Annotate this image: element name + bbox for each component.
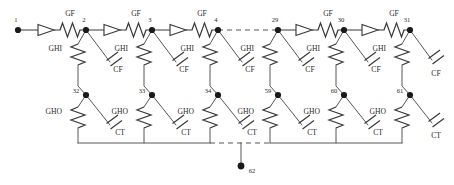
- series-resistor-3-4: [192, 23, 212, 37]
- node-label-29: 29: [272, 16, 279, 23]
- upper-shunt-node-4: GHI CF: [181, 30, 255, 95]
- shunt-label-ghi-4: GHI: [181, 44, 195, 53]
- node-dot-30[interactable]: [341, 27, 347, 33]
- node-dot-61[interactable]: [407, 92, 413, 98]
- node-dot-31[interactable]: [407, 27, 413, 33]
- shunt-label-cf-4: CF: [245, 65, 254, 74]
- node-dot-29[interactable]: [275, 27, 281, 33]
- shunt-label-gho-32: GHO: [46, 107, 63, 116]
- node-label-3: 3: [148, 16, 152, 23]
- series-triangle-30-31: [362, 25, 378, 36]
- lower-shunt-node-32: GHO CT: [46, 95, 126, 143]
- circuit-diagram: GF GF GF GF GF GHI CF GHI CF: [0, 0, 454, 185]
- circuit-svg: GF GF GF GF GF GHI CF GHI CF: [0, 0, 454, 185]
- node-dot-32[interactable]: [83, 92, 89, 98]
- shunt-label-ghi-29: GHI: [241, 44, 255, 53]
- node-labels-mid: 32 33 34 59 60 61: [73, 87, 404, 94]
- upper-shunt-node-31: GHI CF: [373, 30, 445, 95]
- node-label-31: 31: [404, 16, 411, 23]
- node-label-60: 60: [331, 87, 338, 94]
- upper-shunt-node-30: GHI CF: [307, 30, 381, 95]
- shunt-label-ghi-31: GHI: [373, 44, 387, 53]
- series-triangle-3-4: [170, 25, 186, 36]
- series-label-gf-5: GF: [389, 9, 399, 18]
- series-resistor-29-30: [318, 23, 338, 37]
- shunt-label-ct-61: CT: [431, 131, 441, 140]
- node-dot-33[interactable]: [149, 92, 155, 98]
- node-dot-34[interactable]: [215, 92, 221, 98]
- node-dot-1[interactable]: [15, 27, 21, 33]
- shunt-label-ghi-3: GHI: [115, 44, 129, 53]
- series-resistor-1-2: [60, 23, 80, 37]
- shunt-label-cf-3: CF: [179, 65, 188, 74]
- node-label-1: 1: [14, 16, 17, 23]
- shunt-label-ct-59: CT: [307, 128, 317, 137]
- series-triangle-29-30: [296, 25, 312, 36]
- series-triangle-1-2: [38, 25, 54, 36]
- node-label-59: 59: [265, 87, 272, 94]
- node-label-33: 33: [139, 87, 146, 94]
- node-dot-62[interactable]: [238, 163, 245, 170]
- shunt-label-gho-60: GHO: [304, 107, 321, 116]
- shunt-label-cf-30: CF: [371, 65, 380, 74]
- shunt-label-ct-32: CT: [115, 128, 125, 137]
- series-triangle-2-3: [104, 25, 120, 36]
- node-label-32: 32: [73, 87, 80, 94]
- node-dots-mid: [83, 92, 413, 98]
- shunt-label-ct-34: CT: [247, 128, 257, 137]
- shunt-label-gho-59: GHO: [238, 107, 255, 116]
- shunt-label-cf-31: CF: [431, 69, 440, 78]
- upper-shunt-node-3: GHI CF: [115, 30, 189, 95]
- node-dot-2[interactable]: [83, 27, 89, 33]
- series-label-gf-2: GF: [131, 9, 141, 18]
- shunt-label-gho-33: GHO: [112, 107, 129, 116]
- shunt-label-cf-2: CF: [113, 65, 122, 74]
- series-resistor-30-31: [384, 23, 404, 37]
- shunt-label-ct-33: CT: [181, 128, 191, 137]
- node-label-30: 30: [338, 16, 345, 23]
- series-resistor-2-3: [126, 23, 146, 37]
- upper-shunt-node-29: GHI CF: [241, 30, 315, 95]
- node-dot-4[interactable]: [215, 27, 221, 33]
- upper-shunt-node-2: GHI CF: [49, 30, 123, 95]
- node-dot-3[interactable]: [149, 27, 155, 33]
- node-label-61: 61: [397, 87, 404, 94]
- series-label-gf-1: GF: [65, 9, 75, 18]
- shunt-label-gho-61: GHO: [370, 107, 387, 116]
- node-dot-60[interactable]: [341, 92, 347, 98]
- node-label-34: 34: [205, 87, 212, 94]
- series-label-gf-4: GF: [323, 9, 333, 18]
- node-label-4: 4: [214, 16, 218, 23]
- series-label-gf-3: GF: [197, 9, 207, 18]
- shunt-label-ct-60: CT: [373, 128, 383, 137]
- node-label-2: 2: [82, 16, 85, 23]
- shunt-label-gho-34: GHO: [178, 107, 195, 116]
- shunt-label-ghi-30: GHI: [307, 44, 321, 53]
- shunt-label-cf-29: CF: [305, 65, 314, 74]
- node-label-62: 62: [249, 167, 256, 174]
- node-dot-59[interactable]: [275, 92, 281, 98]
- shunt-label-ghi-2: GHI: [49, 44, 63, 53]
